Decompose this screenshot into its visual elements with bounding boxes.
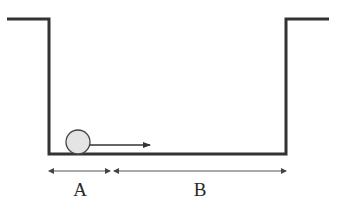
trough-diagram: A B <box>0 0 353 216</box>
segment-b-label: B <box>194 179 207 200</box>
segment-a-label: A <box>73 179 87 200</box>
trough-outline <box>7 19 329 154</box>
ball <box>66 130 90 154</box>
